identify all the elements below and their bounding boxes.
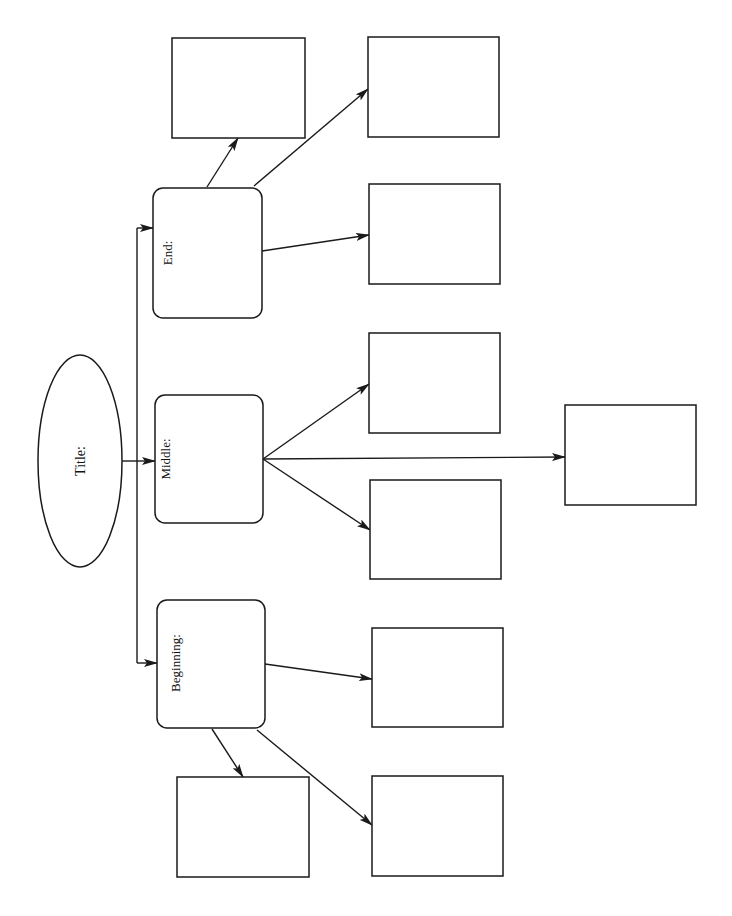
title-label: Title:	[73, 446, 88, 476]
middle-detail-1-rect[interactable]	[369, 333, 500, 433]
arrow-to-beginning-detail-1	[265, 664, 372, 679]
middle-detail-2-rect[interactable]	[565, 405, 696, 505]
detail-box-beginning-detail-1[interactable]	[372, 628, 503, 727]
arrow-to-middle-detail-3	[263, 459, 370, 530]
detail-box-middle-detail-2[interactable]	[565, 405, 696, 505]
middle-label: Middle:	[158, 438, 173, 479]
detail-box-middle-detail-1[interactable]	[369, 333, 500, 433]
beginning-detail-1-rect[interactable]	[372, 628, 503, 727]
end-detail-3-rect[interactable]	[369, 184, 500, 284]
arrow-to-middle-detail-1	[263, 384, 369, 459]
section-beginning[interactable]: Beginning:	[157, 600, 265, 728]
arrow-to-end-detail-3	[262, 235, 369, 251]
beginning-detail-2-rect[interactable]	[177, 777, 309, 877]
beginning-label: Beginning:	[168, 634, 183, 692]
middle-detail-3-rect[interactable]	[370, 480, 501, 579]
title-node: Title:	[38, 355, 122, 567]
detail-box-beginning-detail-3[interactable]	[372, 776, 503, 876]
arrow-to-beginning-detail-2	[212, 729, 243, 777]
arrow-to-middle-detail-2	[263, 457, 565, 459]
section-end[interactable]: End:	[153, 188, 262, 318]
end-label: End:	[160, 241, 175, 266]
detail-box-end-detail-3[interactable]	[369, 184, 500, 284]
detail-box-beginning-detail-2[interactable]	[177, 777, 309, 877]
end-detail-2-rect[interactable]	[368, 37, 499, 137]
end-detail-1-rect[interactable]	[172, 38, 305, 138]
detail-box-end-detail-1[interactable]	[172, 38, 305, 138]
story-map-diagram: Title:End:Middle:Beginning:	[0, 0, 732, 916]
detail-box-end-detail-2[interactable]	[368, 37, 499, 137]
section-middle[interactable]: Middle:	[155, 395, 263, 523]
arrow-to-end-detail-1	[207, 138, 238, 187]
beginning-detail-3-rect[interactable]	[372, 776, 503, 876]
detail-box-middle-detail-3[interactable]	[370, 480, 501, 579]
